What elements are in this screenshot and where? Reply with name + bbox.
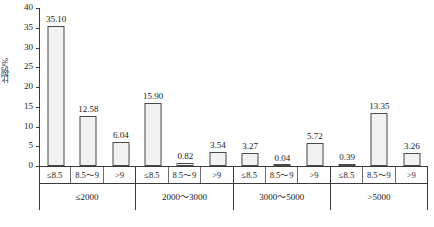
bar[interactable] (371, 113, 388, 166)
y-axis-tick-label: 40 (24, 2, 33, 12)
sub-category-label: >9 (201, 167, 233, 183)
bar[interactable] (145, 103, 162, 166)
bar[interactable] (177, 163, 194, 166)
bar[interactable] (339, 164, 356, 166)
y-axis-tick-label: 10 (24, 121, 33, 131)
plot-area: 0510152025303540 35.1012.586.0415.900.82… (39, 8, 428, 167)
y-axis-tick-label: 0 (29, 160, 34, 170)
group-label: 3000～5000 (234, 184, 331, 210)
bar-cell: 0.04 (266, 8, 298, 166)
y-axis-tick-label: 35 (24, 22, 33, 32)
bar-value-label: 15.90 (143, 91, 163, 101)
sub-category-row: ≤8.58.5～9>9≤8.58.5～9>9≤8.58.5～9>9≤8.58.5… (39, 167, 428, 184)
bar-value-label: 0.39 (339, 152, 355, 162)
group-label: >5000 (331, 184, 428, 210)
category-label-table: ≤8.58.5～9>9≤8.58.5～9>9≤8.58.5～9>9≤8.58.5… (39, 167, 428, 210)
bar-value-label: 12.58 (78, 104, 98, 114)
sub-category-label: ≤8.5 (234, 167, 266, 183)
bar-cell: 12.58 (72, 8, 104, 166)
bar-cell: 6.04 (105, 8, 137, 166)
bar-cell: 35.10 (40, 8, 72, 166)
sub-category-label: ≤8.5 (39, 167, 71, 183)
group-label-row: ≤20002000～30003000～5000>5000 (39, 184, 428, 210)
bar-cell: 3.27 (234, 8, 266, 166)
sub-category-label: >9 (298, 167, 330, 183)
bar-value-label: 6.04 (113, 130, 129, 140)
sub-category-label: 8.5～9 (169, 167, 201, 183)
bar-cell: 3.26 (396, 8, 428, 166)
bar-value-label: 0.04 (275, 153, 291, 163)
y-axis-tick-label: 20 (24, 81, 33, 91)
group-label: 2000～3000 (136, 184, 233, 210)
bar-value-label: 35.10 (46, 14, 66, 24)
y-axis-tick-label: 30 (24, 42, 33, 52)
bar-value-label: 3.54 (210, 140, 226, 150)
bar-cell: 3.54 (202, 8, 234, 166)
bar[interactable] (274, 164, 291, 166)
bar-value-label: 3.27 (242, 141, 258, 151)
bar[interactable] (242, 153, 259, 166)
sub-category-label: 8.5～9 (71, 167, 103, 183)
bars-layer: 35.1012.586.0415.900.823.543.270.045.720… (40, 8, 428, 166)
bar-value-label: 0.82 (178, 151, 194, 161)
y-axis-title: 比例/% (1, 58, 15, 83)
bar-cell: 15.90 (137, 8, 169, 166)
bar-value-label: 3.26 (404, 141, 420, 151)
bar-value-label: 13.35 (369, 101, 389, 111)
sub-category-label: 8.5～9 (266, 167, 298, 183)
sub-category-label: >9 (104, 167, 136, 183)
bar-cell: 5.72 (299, 8, 331, 166)
bar[interactable] (48, 26, 65, 166)
y-axis-tick-label: 25 (24, 61, 33, 71)
bar[interactable] (306, 143, 323, 166)
bar-cell: 0.82 (169, 8, 201, 166)
bar[interactable] (403, 153, 420, 166)
sub-category-label: >9 (396, 167, 428, 183)
bar[interactable] (209, 152, 226, 166)
bar-cell: 13.35 (363, 8, 395, 166)
bar[interactable] (112, 142, 129, 166)
sub-category-label: 8.5～9 (363, 167, 395, 183)
y-axis-tick-label: 5 (29, 140, 34, 150)
bar-chart: 比例/% 0510152025303540 35.1012.586.0415.9… (0, 0, 434, 227)
bar-value-label: 5.72 (307, 131, 323, 141)
bar[interactable] (80, 116, 97, 166)
group-label: ≤2000 (39, 184, 136, 210)
sub-category-label: ≤8.5 (136, 167, 168, 183)
y-axis-tick-label: 15 (24, 101, 33, 111)
bar-cell: 0.39 (331, 8, 363, 166)
sub-category-label: ≤8.5 (331, 167, 363, 183)
